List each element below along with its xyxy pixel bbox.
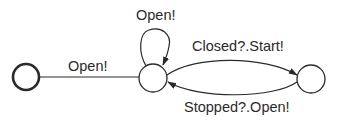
transition-label-open-initial: Open! bbox=[68, 58, 108, 74]
transition-s2-to-s1 bbox=[168, 82, 297, 95]
state-diagram: Open! Open! Closed?.Start! Stopped?.Open… bbox=[0, 0, 337, 121]
start-state bbox=[13, 64, 39, 90]
transition-label-stopped-open: Stopped?.Open! bbox=[184, 99, 290, 115]
state-s2 bbox=[297, 65, 325, 93]
transition-s1-to-s2 bbox=[167, 60, 297, 75]
transition-label-closed-start: Closed?.Start! bbox=[192, 38, 284, 54]
state-s1 bbox=[139, 64, 167, 92]
transition-s1-self-loop bbox=[141, 29, 170, 66]
transition-label-open-self: Open! bbox=[136, 7, 176, 23]
